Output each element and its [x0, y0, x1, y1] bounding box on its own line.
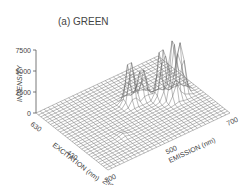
- mesh-line-emission: [121, 73, 193, 130]
- mesh-line-emission: [69, 98, 141, 155]
- mesh-line-emission: [48, 107, 120, 164]
- mesh-line-excitation: [79, 83, 201, 147]
- surface-plot: (a) GREEN INTENSITY 0250050007500 630430…: [0, 0, 239, 185]
- mesh-line-emission: [81, 92, 153, 149]
- chart-title: (a) GREEN: [58, 16, 109, 27]
- mesh-line-emission: [65, 100, 137, 157]
- mesh-line-emission: [44, 109, 116, 166]
- z-tick-label: 5000: [15, 68, 31, 75]
- mesh-line-excitation: [58, 73, 180, 130]
- x-axis-label: EXCITATION (nm): [51, 141, 101, 183]
- mesh-line-emission: [150, 60, 222, 117]
- x-tick-label: 630: [29, 120, 43, 133]
- y-tick-label: 700: [225, 116, 239, 127]
- mesh-line-emission: [138, 61, 210, 123]
- mesh-line-emission: [77, 94, 149, 151]
- z-tick-label: 0: [27, 110, 31, 117]
- z-tick-label: 7500: [15, 47, 31, 54]
- z-tick-label: 2500: [15, 89, 31, 96]
